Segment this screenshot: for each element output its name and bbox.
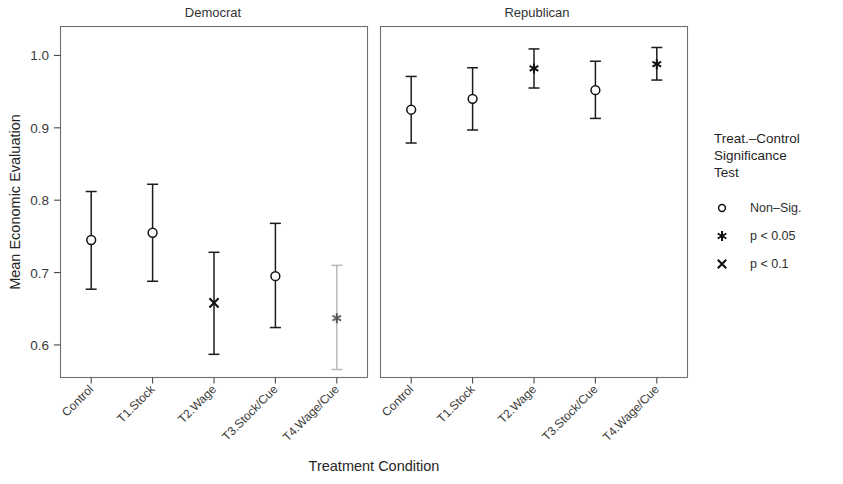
y-axis: 0.60.70.80.91.0 [30,48,60,352]
x-axis-democrat: ControlT1.StockT2.WageT3.Stock/CueT4.Wag… [59,378,342,445]
legend-items: Non–Sig.p < 0.05p < 0.1 [718,201,802,271]
legend-title-line1: Treat.–Control [714,131,800,146]
data-series-republican [406,47,663,143]
x-tick-label: T1.Stock [114,382,158,426]
y-tick-label: 1.0 [30,48,49,63]
data-point-marker [468,94,477,103]
data-point-marker [148,228,157,237]
circle-icon [148,228,157,237]
data-point-marker [652,59,661,69]
x-tick-label: T3.Stock/Cue [219,382,281,444]
x-tick-label: T4.Wage/Cue [600,382,662,444]
legend-item-label: Non–Sig. [750,201,801,215]
circle-icon [468,94,477,103]
circle-icon [87,236,96,245]
legend-title-line3: Test [714,165,739,180]
legend: Treat.–Control Significance Test Non–Sig… [714,131,801,271]
asterisk-icon [530,63,539,73]
x-tick-label: T2.Wage [175,382,219,426]
data-point-marker [407,105,416,114]
y-tick-label: 0.9 [30,121,49,136]
x-tick-label: T2.Wage [495,382,539,426]
x-tick-label: T3.Stock/Cue [539,382,601,444]
circle-icon [591,86,600,95]
data-point-marker [591,86,600,95]
circle-icon [407,105,416,114]
chart-figure: Democrat Republican 0.60.70.80.91.0 Cont… [0,0,843,484]
chart-svg: Democrat Republican 0.60.70.80.91.0 Cont… [0,0,843,484]
data-point-marker [530,63,539,73]
x-tick-label: T1.Stock [434,382,478,426]
legend-item-label: p < 0.1 [750,257,789,271]
y-axis-title: Mean Economic Evaluation [7,114,23,290]
circle-icon [271,272,280,281]
x-tick-label: Control [59,382,96,419]
y-tick-label: 0.7 [30,266,49,281]
y-tick-label: 0.8 [30,193,49,208]
x-tick-label: T4.Wage/Cue [280,382,342,444]
data-point-marker [87,236,96,245]
asterisk-icon [652,59,661,69]
x-tick-label: Control [379,382,416,419]
data-series-democrat [86,184,343,369]
panel-title-democrat: Democrat [185,5,242,20]
legend-item-label: p < 0.05 [750,229,796,243]
data-point-marker [332,313,341,323]
legend-item[interactable]: Non–Sig. [719,201,802,215]
asterisk-icon [718,231,727,241]
data-point-marker [271,272,280,281]
asterisk-icon [332,313,341,323]
x-axis-republican: ControlT1.StockT2.WageT3.Stock/CueT4.Wag… [379,378,662,445]
panel-title-republican: Republican [504,5,569,20]
legend-item[interactable]: p < 0.05 [718,229,796,243]
legend-title-line2: Significance [714,148,787,163]
cross-icon [718,260,726,268]
y-tick-label: 0.6 [30,338,49,353]
legend-item[interactable]: p < 0.1 [718,257,789,271]
circle-icon [719,205,726,212]
x-axis-title: Treatment Condition [309,458,440,474]
